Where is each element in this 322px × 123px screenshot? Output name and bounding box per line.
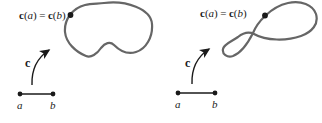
endpoint-a-label: a	[175, 98, 181, 110]
endpoint-b-dot	[51, 92, 56, 97]
endpoint-a-dot	[18, 92, 23, 97]
endpoint-b-label: b	[212, 98, 218, 110]
curve-point-label: c(a)=c(b)	[200, 7, 247, 20]
right-figure: c(a)=c(b) c a b	[175, 2, 317, 110]
endpoint-b-dot	[213, 91, 218, 96]
diagram-canvas: c(a)=c(b) c a b c(a)=c(b) c	[0, 0, 322, 123]
map-arrow	[192, 49, 209, 84]
closed-curves-diagram: c(a)=c(b) c a b c(a)=c(b) c	[0, 0, 322, 123]
simple-closed-curve	[65, 2, 152, 56]
map-arrow	[32, 50, 49, 85]
basepoint-dot	[262, 13, 268, 19]
curve-point-label: c(a)=c(b)	[19, 9, 66, 22]
map-label: c	[185, 56, 191, 70]
map-label: c	[25, 56, 31, 70]
endpoint-a-label: a	[17, 99, 23, 111]
endpoint-b-label: b	[50, 99, 56, 111]
endpoint-a-dot	[176, 91, 181, 96]
left-figure: c(a)=c(b) c a b	[17, 2, 152, 111]
basepoint-dot	[68, 12, 74, 18]
